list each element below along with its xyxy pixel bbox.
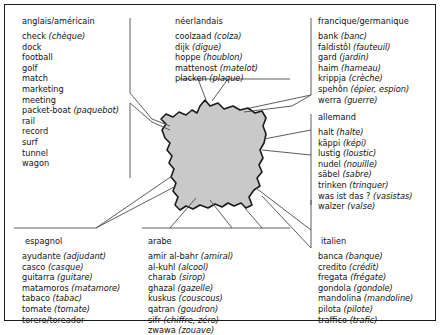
entry-gloss: (matamore) bbox=[69, 283, 121, 293]
entry-word: bank bbox=[318, 31, 338, 41]
entry-word: spehôn bbox=[318, 84, 348, 94]
lexical-entry: tunnel bbox=[22, 148, 119, 159]
entry-list-anglais: check (chèque)dockfootballgolfmatchmarke… bbox=[22, 31, 119, 169]
lexical-entry: traffico (trafic) bbox=[318, 315, 413, 326]
lexical-entry: check (chèque) bbox=[22, 31, 119, 42]
entry-gloss: (matelot) bbox=[217, 63, 258, 73]
lexical-entry: krippja (crèche) bbox=[318, 73, 409, 84]
lexical-entry: surf bbox=[22, 137, 119, 148]
entry-word: ayudante bbox=[22, 251, 61, 261]
entry-gloss: (sirop) bbox=[176, 272, 205, 282]
entry-word: käppi bbox=[318, 138, 340, 148]
entry-gloss: (halte) bbox=[334, 127, 364, 137]
entry-word: al-kuhl bbox=[148, 262, 175, 272]
block-italien: italien banca (banque)credito (crédit)fr… bbox=[318, 236, 413, 325]
block-title-arabe: arabe bbox=[148, 236, 233, 247]
entry-word: traffico bbox=[318, 315, 347, 325]
entry-word: rail bbox=[22, 116, 35, 126]
lexical-entry: casco (casque) bbox=[22, 262, 120, 273]
block-title-italien: italien bbox=[321, 236, 413, 247]
entry-word: placken bbox=[175, 73, 207, 83]
lexical-entry: spehôn (épier, espion) bbox=[318, 84, 409, 95]
entry-word: surf bbox=[22, 137, 38, 147]
entry-gloss: (houblon) bbox=[201, 52, 243, 62]
entry-gloss: (alcool) bbox=[175, 262, 208, 272]
entry-list-neerlandais: coolzaad (colza)dijk (digue)hoppe (houbl… bbox=[175, 31, 258, 84]
connector-italien bbox=[256, 188, 311, 248]
entry-gloss: (trafic) bbox=[347, 315, 377, 325]
lexical-entry: säbel (sabre) bbox=[318, 169, 413, 180]
entry-word: matamoros bbox=[22, 283, 69, 293]
entry-gloss: (gondole) bbox=[351, 283, 393, 293]
entry-word: coolzaad bbox=[175, 31, 211, 41]
entry-word: tabaco bbox=[22, 293, 50, 303]
entry-word: haim bbox=[318, 63, 338, 73]
entry-word: ghazal bbox=[148, 283, 175, 293]
lexical-entry: nudel (nouille) bbox=[318, 159, 413, 170]
entry-word: nudel bbox=[318, 159, 341, 169]
entry-word: guitarra bbox=[22, 272, 55, 282]
lexical-entry: trinken (trinquer) bbox=[318, 180, 413, 191]
lexical-entry: zwawa (zouave) bbox=[148, 325, 233, 335]
entry-word: mandolina bbox=[318, 293, 361, 303]
entry-word: credito bbox=[318, 262, 346, 272]
lexical-entry: banca (banque) bbox=[318, 251, 413, 262]
entry-word: packet-boat bbox=[22, 105, 71, 115]
entry-word: was ist das ? bbox=[318, 191, 370, 201]
block-title-francique: francique/germanique bbox=[318, 16, 409, 27]
entry-gloss: (gazelle) bbox=[175, 283, 213, 293]
lexical-entry: charab (sirop) bbox=[148, 272, 233, 283]
entry-word: tomate bbox=[22, 304, 51, 314]
entry-word: sifr bbox=[148, 315, 161, 325]
lexical-entry: match bbox=[22, 73, 119, 84]
entry-word: casco bbox=[22, 262, 45, 272]
entry-gloss: (banque) bbox=[343, 251, 383, 261]
entry-word: mattenost bbox=[175, 63, 217, 73]
lexical-entry: faldistôl (fauteuil) bbox=[318, 42, 409, 53]
lexical-entry: football bbox=[22, 52, 119, 63]
entry-gloss: (guerre) bbox=[341, 95, 377, 105]
block-espagnol: espagnol ayudante (adjudant)casco (casqu… bbox=[22, 236, 120, 325]
lexical-entry: record bbox=[22, 126, 119, 137]
lexical-entry: ghazal (gazelle) bbox=[148, 283, 233, 294]
entry-gloss: (plaque) bbox=[207, 73, 244, 83]
block-neerlandais: néerlandais coolzaad (colza)dijk (digue)… bbox=[175, 16, 258, 84]
entry-word: pilota bbox=[318, 304, 341, 314]
entry-gloss: (fauteuil) bbox=[350, 42, 390, 52]
lexical-entry: lustig (loustic) bbox=[318, 148, 413, 159]
entry-gloss: (crédit) bbox=[346, 262, 379, 272]
block-anglais: anglais/américain check (chèque)dockfoot… bbox=[22, 16, 119, 169]
lexical-entry: halt (halte) bbox=[318, 127, 413, 138]
entry-gloss: (hameau) bbox=[338, 63, 380, 73]
entry-word: amir al-bahr bbox=[148, 251, 198, 261]
entry-gloss: (sabre) bbox=[340, 169, 372, 179]
lexical-entry: werra (guerre) bbox=[318, 95, 409, 106]
entry-gloss: (zouave) bbox=[176, 325, 214, 335]
lexical-entry: kuskus (couscous) bbox=[148, 293, 233, 304]
entry-list-arabe: amir al-bahr (amiral)al-kuhl (alcool)cha… bbox=[148, 251, 233, 335]
lexical-entry: tabaco (tabac) bbox=[22, 293, 120, 304]
entry-gloss: (nouille) bbox=[341, 159, 377, 169]
entry-word: hoppe bbox=[175, 52, 201, 62]
entry-word: football bbox=[22, 52, 53, 62]
entry-word: banca bbox=[318, 251, 343, 261]
entry-gloss: (vasistas) bbox=[370, 191, 412, 201]
connector-espagnol bbox=[14, 176, 176, 228]
lexical-entry: pilota (pilote) bbox=[318, 304, 413, 315]
entry-list-allemand: halt (halte)käppi (képi)lustig (loustic)… bbox=[318, 127, 413, 212]
entry-word: marketing bbox=[22, 84, 64, 94]
lexical-entry: wagon bbox=[22, 158, 119, 169]
entry-gloss: (goudron) bbox=[175, 304, 218, 314]
entry-word: gard bbox=[318, 52, 337, 62]
connector-allemand bbox=[262, 114, 311, 205]
entry-gloss: (mandoline) bbox=[361, 293, 413, 303]
entry-word: krippja bbox=[318, 73, 346, 83]
lexical-entry: matamoros (matamore) bbox=[22, 283, 120, 294]
entry-word: säbel bbox=[318, 169, 340, 179]
entry-word: meeting bbox=[22, 95, 56, 105]
entry-gloss: (crèche) bbox=[346, 73, 383, 83]
entry-word: golf bbox=[22, 63, 37, 73]
entry-gloss: (tomate) bbox=[51, 304, 89, 314]
lexical-entry: tomate (tomate) bbox=[22, 304, 120, 315]
entry-word: charab bbox=[148, 272, 176, 282]
